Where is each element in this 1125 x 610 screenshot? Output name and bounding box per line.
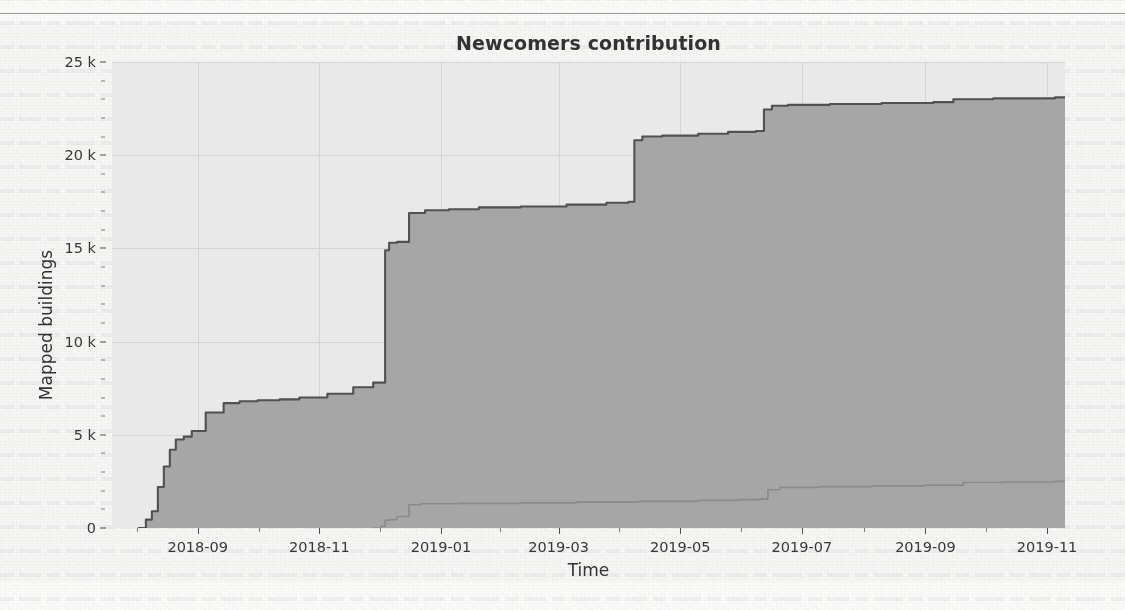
x-tick-mark <box>198 528 199 534</box>
y-tick-minor <box>101 211 105 212</box>
x-tick-label: 2019-03 <box>528 539 589 555</box>
y-tick-minor <box>101 285 105 286</box>
x-tick-mark <box>925 528 926 534</box>
x-tick-mark <box>559 528 560 534</box>
series-area-0 <box>138 97 1065 528</box>
y-tick-mark <box>100 155 106 156</box>
x-tick-minor <box>137 528 138 532</box>
x-tick-label: 2018-11 <box>289 539 350 555</box>
x-tick-minor <box>380 528 381 532</box>
y-tick-minor <box>101 360 105 361</box>
x-tick-minor <box>500 528 501 532</box>
y-tick-minor <box>101 322 105 323</box>
x-tick-label: 2018-09 <box>167 539 228 555</box>
y-tick-mark <box>100 341 106 342</box>
y-tick-label: 0 <box>87 520 96 536</box>
data-series-layer <box>112 62 1065 528</box>
y-tick-label: 15 k <box>65 240 96 256</box>
page-header-rule <box>0 13 1125 14</box>
chart-figure: Newcomers contribution 05 k10 k15 k20 k2… <box>0 22 1125 582</box>
x-axis-label: Time <box>112 560 1065 580</box>
x-tick-mark <box>441 528 442 534</box>
x-tick-mark <box>1047 528 1048 534</box>
plot-area <box>112 62 1065 528</box>
y-tick-minor <box>101 509 105 510</box>
y-tick-minor <box>101 267 105 268</box>
y-tick-minor <box>101 80 105 81</box>
y-tick-label: 20 k <box>65 147 96 163</box>
chart-title: Newcomers contribution <box>112 32 1065 54</box>
y-tick-minor <box>101 490 105 491</box>
y-tick-mark <box>100 528 106 529</box>
x-tick-mark <box>680 528 681 534</box>
y-tick-minor <box>101 397 105 398</box>
y-tick-minor <box>101 304 105 305</box>
x-tick-minor <box>619 528 620 532</box>
x-tick-label: 2019-05 <box>650 539 711 555</box>
y-tick-minor <box>101 229 105 230</box>
x-tick-mark <box>802 528 803 534</box>
y-tick-mark <box>100 248 106 249</box>
series-svg <box>112 62 1065 528</box>
y-tick-minor <box>101 192 105 193</box>
y-tick-minor <box>101 117 105 118</box>
x-axis: 2018-092018-112019-012019-032019-052019-… <box>112 528 1065 582</box>
y-tick-minor <box>101 173 105 174</box>
x-tick-minor <box>741 528 742 532</box>
y-tick-label: 5 k <box>74 427 96 443</box>
x-tick-minor <box>986 528 987 532</box>
x-tick-minor <box>259 528 260 532</box>
x-tick-minor <box>864 528 865 532</box>
y-tick-minor <box>101 453 105 454</box>
y-tick-minor <box>101 472 105 473</box>
y-axis: 05 k10 k15 k20 k25 k Mapped buildings <box>0 62 112 528</box>
x-tick-mark <box>319 528 320 534</box>
y-tick-mark <box>100 62 106 63</box>
y-tick-minor <box>101 378 105 379</box>
y-tick-label: 10 k <box>65 334 96 350</box>
y-tick-minor <box>101 99 105 100</box>
x-tick-label: 2019-11 <box>1017 539 1078 555</box>
y-tick-mark <box>100 434 106 435</box>
y-axis-label: Mapped buildings <box>36 115 56 535</box>
x-tick-label: 2019-01 <box>411 539 472 555</box>
y-tick-minor <box>101 416 105 417</box>
y-tick-label: 25 k <box>65 54 96 70</box>
x-tick-label: 2019-09 <box>895 539 956 555</box>
x-tick-label: 2019-07 <box>772 539 833 555</box>
y-tick-minor <box>101 136 105 137</box>
